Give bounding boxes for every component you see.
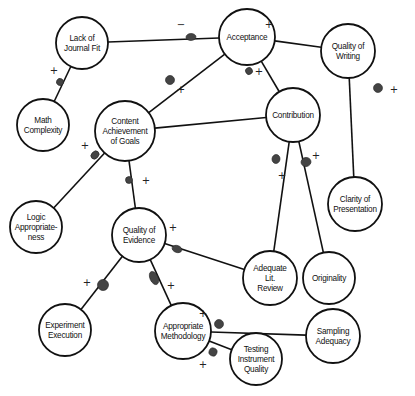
node-label: Adequacy — [316, 337, 352, 346]
node-content_achievement: ContentAchievementof Goals — [95, 101, 155, 161]
node-label: Instrument — [238, 355, 276, 364]
node-label: Adequate — [253, 264, 287, 273]
edge-lack_fit-to-acceptance — [108, 38, 219, 42]
node-testing: TestingInstrumentQuality — [230, 333, 282, 385]
node-label: Content — [111, 117, 139, 126]
arrow-marker-icon — [164, 74, 177, 87]
edge-logic-to-content_achievement — [54, 153, 105, 208]
causal-diagram: Lack ofJournal FitAcceptanceQuality ofWr… — [0, 0, 415, 396]
node-circle — [17, 99, 69, 151]
node-originality: Originality — [303, 252, 355, 304]
edge-content_achievement-to-contribution — [155, 118, 266, 129]
node-label: Originality — [312, 274, 347, 283]
negative-sign: − — [177, 19, 185, 30]
node-label: of Goals — [111, 137, 140, 146]
node-label: Experiment — [45, 321, 85, 330]
node-acceptance: Acceptance — [219, 9, 275, 65]
node-logic: LogicAppropriate-ness — [10, 201, 62, 253]
node-circle — [306, 309, 360, 363]
arrow-marker-icon — [373, 83, 382, 92]
node-lack_fit: Lack ofJournal Fit — [56, 17, 108, 69]
arrow-marker-icon — [186, 33, 196, 40]
edge-content_achievement-to-acceptance — [149, 54, 225, 113]
node-experiment: ExperimentExecution — [39, 304, 91, 356]
node-label: Logic — [27, 213, 46, 222]
node-circle — [39, 304, 91, 356]
node-quality_evidence: Quality ofEvidence — [112, 208, 166, 262]
arrow-marker-icon — [208, 347, 218, 357]
positive-sign: + — [255, 66, 263, 77]
node-label: Review — [257, 284, 283, 293]
node-contribution: Contribution — [266, 88, 320, 142]
node-label: Execution — [48, 331, 83, 340]
edge-quality_writing-to-acceptance — [275, 41, 322, 47]
positive-sign: + — [390, 84, 398, 95]
node-clarity: Clarity ofPresentation — [328, 177, 382, 231]
node-label: Quality — [244, 365, 269, 374]
arrow-marker-icon — [244, 66, 254, 76]
node-label: Clarity of — [340, 195, 371, 204]
positive-sign: + — [312, 150, 320, 161]
positive-sign: + — [278, 170, 286, 181]
positive-sign: + — [199, 308, 207, 319]
edge-clarity-to-quality_writing — [349, 78, 354, 177]
positive-sign: + — [81, 140, 89, 151]
arrow-marker-icon — [271, 154, 280, 164]
arrow-marker-icon — [214, 319, 223, 328]
node-math_complexity: MathComplexity — [17, 99, 69, 151]
node-label: Appropriate- — [15, 223, 58, 232]
node-label: Achievement — [102, 127, 148, 136]
node-label: Sampling — [317, 327, 350, 336]
node-circle — [321, 24, 375, 78]
positive-sign: + — [142, 175, 150, 186]
node-label: Acceptance — [227, 33, 268, 42]
positive-sign: + — [50, 65, 58, 76]
edge-contribution-to-acceptance — [261, 61, 279, 92]
node-circle — [328, 177, 382, 231]
node-sampling: SamplingAdequacy — [306, 309, 360, 363]
node-label: Lack of — [70, 34, 96, 43]
node-label: ness — [28, 233, 45, 242]
node-label: Contribution — [272, 111, 314, 120]
node-label: Writing — [336, 52, 361, 61]
positive-sign: + — [83, 277, 91, 288]
positive-sign: + — [169, 222, 177, 233]
node-label: Appropriate — [163, 322, 204, 331]
positive-sign: + — [265, 19, 273, 30]
edges-layer — [54, 38, 354, 350]
node-label: Lit. — [265, 274, 275, 283]
arrow-marker-icon — [95, 277, 110, 292]
node-label: Quality of — [332, 42, 366, 51]
node-circle — [56, 17, 108, 69]
node-label: Quality of — [123, 226, 157, 235]
node-label: Evidence — [123, 236, 156, 245]
positive-sign: + — [177, 84, 185, 95]
edge-quality_evidence-to-content_achievement — [129, 161, 135, 209]
node-lit_review: AdequateLit.Review — [243, 251, 297, 305]
positive-sign: + — [199, 359, 207, 370]
node-circle — [112, 208, 166, 262]
node-label: Methodology — [161, 332, 207, 341]
node-label: Complexity — [24, 126, 64, 135]
node-label: Math — [34, 116, 52, 125]
node-label: Presentation — [333, 205, 377, 214]
node-quality_writing: Quality ofWriting — [321, 24, 375, 78]
nodes-layer: Lack ofJournal FitAcceptanceQuality ofWr… — [10, 9, 382, 385]
node-label: Testing — [244, 345, 269, 354]
arrow-marker-icon — [55, 77, 64, 86]
node-label: Journal Fit — [64, 44, 101, 53]
positive-sign: + — [167, 280, 175, 291]
